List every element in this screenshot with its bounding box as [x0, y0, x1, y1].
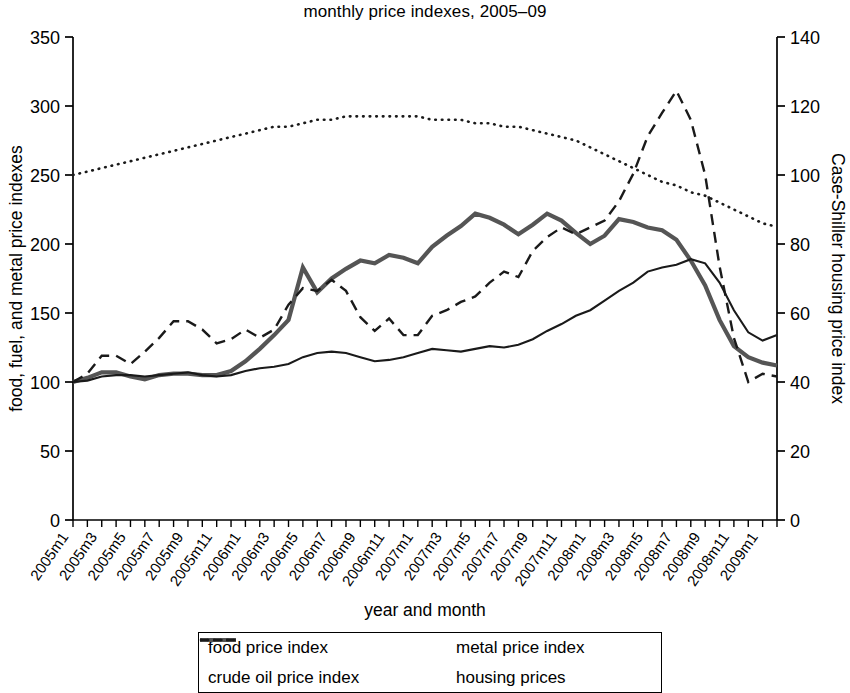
y2-tick-label: 140	[790, 28, 820, 48]
legend-item-crude-oil: crude oil price index	[208, 668, 456, 688]
y-tick-label: 350	[30, 28, 60, 48]
y-tick-label: 50	[40, 442, 60, 462]
legend-item-food: food price index	[208, 638, 456, 658]
y-tick-label: 200	[30, 235, 60, 255]
y-tick-label: 300	[30, 97, 60, 117]
series-line-housing	[73, 116, 777, 226]
y-tick-label: 250	[30, 166, 60, 186]
legend-item-housing: housing prices	[456, 668, 672, 688]
y2-axis-title: Case-Shiller housing price index	[828, 153, 848, 404]
legend-swatch-dotted-line	[199, 633, 237, 647]
y2-tick-label: 60	[790, 304, 810, 324]
legend-label-crude-oil: crude oil price index	[208, 668, 359, 688]
chart-figure: monthly price indexes, 2005–09 050100150…	[0, 0, 850, 693]
y-axis-title: food, fuel, and metal price indexes	[6, 145, 26, 412]
chart-plot-area: 0501001502002503003500204060801001201402…	[0, 0, 850, 625]
legend-label-housing: housing prices	[456, 668, 566, 688]
y-tick-label: 150	[30, 304, 60, 324]
chart-legend: food price index metal price index crude…	[198, 632, 662, 693]
series-line-metal	[73, 214, 777, 382]
y2-tick-label: 80	[790, 235, 810, 255]
y2-tick-label: 20	[790, 442, 810, 462]
legend-item-metal: metal price index	[456, 638, 672, 658]
y2-tick-label: 0	[790, 511, 800, 531]
x-axis-title: year and month	[364, 600, 486, 620]
y-tick-label: 0	[50, 511, 60, 531]
y2-tick-label: 100	[790, 166, 820, 186]
y-tick-label: 100	[30, 373, 60, 393]
y2-tick-label: 120	[790, 97, 820, 117]
legend-label-metal: metal price index	[456, 638, 585, 658]
y2-tick-label: 40	[790, 373, 810, 393]
